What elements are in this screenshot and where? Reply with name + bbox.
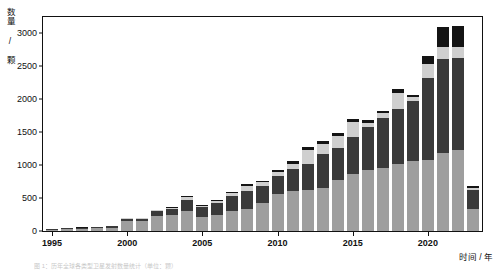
bar-segment-series-1 bbox=[317, 188, 329, 231]
bar-segment-series-2 bbox=[181, 200, 193, 211]
bar-2000 bbox=[121, 218, 133, 231]
bar-segment-series-1 bbox=[166, 215, 178, 231]
bar-2011 bbox=[287, 161, 299, 231]
bar-2017 bbox=[377, 111, 389, 231]
y-axis-tick bbox=[39, 231, 43, 232]
bar-segment-series-3 bbox=[422, 64, 434, 78]
bar-segment-series-1 bbox=[467, 209, 479, 231]
bar-2016 bbox=[362, 120, 374, 231]
bar-2013 bbox=[317, 141, 329, 231]
bar-segment-series-3 bbox=[302, 150, 314, 164]
bar-segment-series-2 bbox=[332, 148, 344, 180]
y-axis-tick-label: 2000 bbox=[17, 94, 37, 104]
y-axis-tick-label: 500 bbox=[22, 193, 37, 203]
y-axis-tick-label: 3000 bbox=[17, 28, 37, 38]
bar-segment-series-1 bbox=[287, 191, 299, 231]
bar-segment-series-2 bbox=[392, 109, 404, 164]
y-axis-title: 数量 / 颗 bbox=[1, 8, 14, 65]
bar-segment-series-3 bbox=[332, 136, 344, 149]
bar-1996 bbox=[61, 228, 73, 231]
bar-2019 bbox=[407, 95, 419, 231]
bar-segment-series-1 bbox=[272, 194, 284, 231]
bar-segment-series-1 bbox=[226, 211, 238, 231]
bar-segment-series-2 bbox=[196, 207, 208, 217]
bar-segment-series-2 bbox=[422, 78, 434, 160]
bar-segment-series-4 bbox=[437, 27, 449, 47]
bar-segment-series-1 bbox=[362, 170, 374, 231]
bar-segment-series-1 bbox=[392, 164, 404, 231]
x-axis-title: 时间 / 年 bbox=[459, 250, 493, 262]
y-axis-tick-label: 1000 bbox=[17, 160, 37, 170]
bar-segment-series-2 bbox=[362, 127, 374, 170]
bar-segment-series-3 bbox=[437, 47, 449, 59]
x-axis-tick-label: 2020 bbox=[418, 238, 438, 248]
bar-segment-series-2 bbox=[347, 137, 359, 174]
plot-area: 0500100015002000250030001995200020052010… bbox=[42, 16, 483, 232]
x-axis-tick-label: 1995 bbox=[42, 238, 62, 248]
bar-segment-series-2 bbox=[467, 190, 479, 210]
y-axis-tick bbox=[39, 198, 43, 199]
x-axis-tick bbox=[353, 231, 354, 236]
bar-segment-series-4 bbox=[422, 56, 434, 64]
bar-segment-series-1 bbox=[211, 215, 223, 231]
bar-segment-series-1 bbox=[256, 203, 268, 231]
y-axis-tick bbox=[39, 33, 43, 34]
bar-segment-series-2 bbox=[226, 196, 238, 211]
bar-2023 bbox=[467, 186, 479, 231]
bar-segment-series-2 bbox=[256, 186, 268, 202]
bar-2004 bbox=[181, 196, 193, 231]
x-axis-tick-label: 2015 bbox=[343, 238, 363, 248]
y-axis-tick-label: 0 bbox=[32, 226, 37, 236]
x-axis-tick-label: 2005 bbox=[192, 238, 212, 248]
bar-segment-series-4 bbox=[452, 26, 464, 47]
bar-segment-series-1 bbox=[91, 228, 103, 231]
y-axis-tick bbox=[39, 132, 43, 133]
bar-segment-series-2 bbox=[317, 154, 329, 188]
bar-2014 bbox=[332, 133, 344, 231]
x-axis-tick bbox=[202, 231, 203, 236]
x-axis-tick bbox=[127, 231, 128, 236]
bar-segment-series-1 bbox=[46, 230, 58, 231]
bar-segment-series-1 bbox=[437, 153, 449, 231]
bar-segment-series-2 bbox=[407, 101, 419, 160]
x-axis-tick bbox=[278, 231, 279, 236]
bar-2020 bbox=[422, 56, 434, 231]
bar-2005 bbox=[196, 205, 208, 231]
x-axis-tick-label: 2010 bbox=[268, 238, 288, 248]
bar-segment-series-1 bbox=[61, 229, 73, 231]
bar-1998 bbox=[91, 227, 103, 231]
bar-2018 bbox=[392, 89, 404, 231]
bar-2008 bbox=[241, 184, 253, 231]
bar-segment-series-1 bbox=[196, 217, 208, 231]
y-axis-tick bbox=[39, 66, 43, 67]
bar-segment-series-1 bbox=[181, 211, 193, 231]
x-axis-tick bbox=[52, 231, 53, 236]
bar-segment-series-2 bbox=[272, 176, 284, 194]
bar-segment-series-2 bbox=[241, 191, 253, 209]
bar-2010 bbox=[272, 170, 284, 231]
bar-segment-series-2 bbox=[377, 118, 389, 168]
y-axis-tick bbox=[39, 165, 43, 166]
bar-segment-series-2 bbox=[452, 58, 464, 150]
bar-segment-series-1 bbox=[121, 221, 133, 231]
figure-caption: 图 1：历年全球各类型卫星发射数量统计（单位：颗） bbox=[34, 261, 177, 270]
bar-2009 bbox=[256, 181, 268, 231]
y-axis-tick bbox=[39, 99, 43, 100]
bar-segment-series-1 bbox=[422, 160, 434, 231]
bar-2001 bbox=[136, 218, 148, 231]
bar-segment-series-3 bbox=[392, 93, 404, 108]
bar-segment-series-1 bbox=[452, 150, 464, 231]
bar-1997 bbox=[76, 227, 88, 231]
y-axis-tick-label: 2500 bbox=[17, 61, 37, 71]
bar-2015 bbox=[347, 119, 359, 231]
bar-1999 bbox=[106, 226, 118, 231]
x-axis-tick bbox=[428, 231, 429, 236]
bar-segment-series-2 bbox=[211, 203, 223, 215]
bar-2007 bbox=[226, 192, 238, 231]
bar-segment-series-3 bbox=[317, 144, 329, 154]
bar-segment-series-1 bbox=[377, 168, 389, 231]
bar-2012 bbox=[302, 147, 314, 231]
y-axis-tick-label: 1500 bbox=[17, 127, 37, 137]
bar-segment-series-2 bbox=[302, 164, 314, 190]
